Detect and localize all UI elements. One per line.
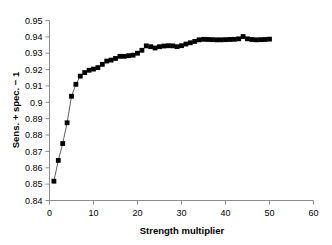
data-point-marker — [56, 158, 61, 163]
data-point-marker — [258, 37, 263, 42]
x-tick-label: 60 — [308, 208, 318, 218]
data-point-marker — [74, 82, 79, 87]
data-point-marker — [206, 37, 211, 42]
data-point-marker — [148, 44, 153, 49]
series-line — [54, 37, 270, 182]
data-point-marker — [157, 44, 162, 49]
y-tick-label: 0.91 — [25, 81, 43, 91]
data-point-marker — [126, 53, 131, 58]
data-point-marker — [236, 36, 241, 41]
data-point-marker — [52, 179, 57, 184]
data-point-marker — [232, 37, 237, 42]
chart-plot-area: 0.840.850.860.870.880.890.90.910.920.930… — [0, 0, 332, 245]
data-point-marker — [69, 94, 74, 99]
data-point-marker — [109, 58, 114, 63]
data-point-marker — [175, 44, 180, 49]
y-tick-label: 0.9 — [30, 98, 43, 108]
data-point-marker — [188, 40, 193, 45]
data-point-marker — [241, 34, 246, 39]
data-point-marker — [223, 37, 228, 42]
x-tick-label: 0 — [47, 208, 52, 218]
data-point-marker — [197, 37, 202, 42]
data-point-marker — [166, 43, 171, 48]
y-tick-label: 0.89 — [25, 114, 43, 124]
data-point-marker — [210, 37, 215, 42]
data-point-marker — [245, 36, 250, 41]
data-point-marker — [219, 37, 224, 42]
data-point-marker — [153, 46, 158, 51]
y-tick-label: 0.94 — [25, 32, 43, 42]
y-tick-label: 0.93 — [25, 48, 43, 58]
data-point-marker — [144, 43, 149, 48]
data-point-marker — [96, 65, 101, 70]
x-tick-label: 40 — [220, 208, 230, 218]
data-point-marker — [113, 56, 118, 61]
data-point-marker — [201, 37, 206, 42]
data-point-marker — [65, 120, 70, 125]
data-point-marker — [263, 37, 268, 42]
data-point-marker — [82, 70, 87, 75]
series-markers — [52, 34, 272, 183]
data-point-marker — [118, 54, 123, 59]
data-point-marker — [135, 51, 140, 56]
x-axis-group: 0102030405060 — [47, 201, 319, 218]
data-point-marker — [170, 43, 175, 48]
data-point-marker — [87, 68, 92, 73]
y-tick-label: 0.92 — [25, 65, 43, 75]
y-axis-ticks — [46, 21, 50, 201]
y-axis-group: 0.840.850.860.870.880.890.90.910.920.930… — [25, 16, 50, 206]
x-axis-tick-labels: 0102030405060 — [47, 208, 319, 218]
data-point-marker — [140, 48, 145, 53]
data-point-marker — [60, 141, 65, 146]
x-axis-title: Strength multiplier — [140, 225, 225, 236]
y-tick-label: 0.88 — [25, 130, 43, 140]
x-tick-label: 20 — [132, 208, 142, 218]
y-axis-tick-labels: 0.840.850.860.870.880.890.90.910.920.930… — [25, 16, 43, 206]
data-point-marker — [91, 67, 96, 72]
data-point-marker — [250, 37, 255, 42]
data-point-marker — [122, 54, 127, 59]
data-point-marker — [192, 39, 197, 44]
y-tick-label: 0.84 — [25, 196, 43, 206]
data-point-marker — [131, 53, 136, 58]
chart-figure: 0.840.850.860.870.880.890.90.910.920.930… — [0, 0, 332, 245]
x-axis-ticks — [50, 201, 314, 205]
data-point-marker — [162, 44, 167, 49]
data-point-marker — [179, 43, 184, 48]
data-point-marker — [104, 59, 109, 64]
x-tick-label: 50 — [264, 208, 274, 218]
data-point-marker — [100, 62, 105, 67]
data-point-marker — [228, 37, 233, 42]
y-axis-title: Sens. + spec. − 1 — [10, 71, 21, 148]
data-point-marker — [78, 74, 83, 79]
y-tick-label: 0.85 — [25, 179, 43, 189]
data-point-marker — [184, 42, 189, 47]
x-tick-label: 30 — [176, 208, 186, 218]
data-point-marker — [254, 37, 259, 42]
y-tick-label: 0.95 — [25, 16, 43, 26]
x-tick-label: 10 — [88, 208, 98, 218]
data-series-group — [52, 34, 272, 183]
y-tick-label: 0.86 — [25, 163, 43, 173]
data-point-marker — [267, 37, 272, 42]
data-point-marker — [214, 37, 219, 42]
y-tick-label: 0.87 — [25, 147, 43, 157]
